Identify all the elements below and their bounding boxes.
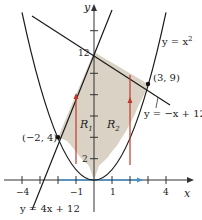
x-axis-label: x	[184, 187, 191, 200]
line-decreasing-label: y = −x + 12	[143, 108, 202, 119]
y-axis-label: y	[83, 1, 91, 14]
line-increasing-label: y = 4x + 12	[19, 203, 80, 214]
diagram-labels: y x −4 −1 1 4 2 12 y = x2 y = −x + 12 y …	[0, 0, 202, 220]
x-tick-label-neg4: −4	[16, 187, 30, 197]
line-decreasing-leader	[156, 97, 158, 108]
y-tick-label-12: 12	[78, 48, 89, 58]
x-tick-label-1: 1	[110, 187, 116, 197]
point-3-9-label: (3, 9)	[153, 72, 180, 83]
x-tick-label-neg1: −1	[70, 187, 83, 197]
y-tick-label-2: 2	[82, 154, 88, 164]
region-R2-label: R2	[106, 118, 120, 133]
parabola-label: y = x2	[161, 35, 193, 47]
x-tick-label-4: 4	[163, 187, 169, 197]
point-neg2-4-label: (−2, 4)	[22, 132, 57, 143]
region-R1-label: R1	[79, 118, 93, 133]
